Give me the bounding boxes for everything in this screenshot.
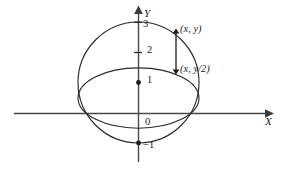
transformation-arrow: [173, 29, 180, 75]
ytick-mark-minus1: [136, 141, 141, 146]
figure-canvas: [0, 0, 284, 179]
horizontal-axis: [14, 109, 274, 118]
ytick-label-1: 1: [147, 75, 152, 86]
transformation-arrow-head-up: [173, 29, 180, 34]
ytick-label-minus1: −1: [143, 140, 154, 151]
x-axis-label: X: [265, 116, 272, 127]
ytick-label-2: 2: [147, 45, 152, 56]
ytick-label-3: 3: [143, 19, 148, 30]
point-label-lower: (x, y/2): [180, 64, 210, 75]
math-figure: Y X 3 2 1 0 −1 (x, y) (x, y/2): [0, 0, 284, 179]
y-axis-arrowhead: [134, 6, 143, 15]
origin-label: 0: [145, 117, 150, 128]
ytick-mark-1: [136, 80, 141, 85]
point-label-upper: (x, y): [180, 24, 202, 35]
